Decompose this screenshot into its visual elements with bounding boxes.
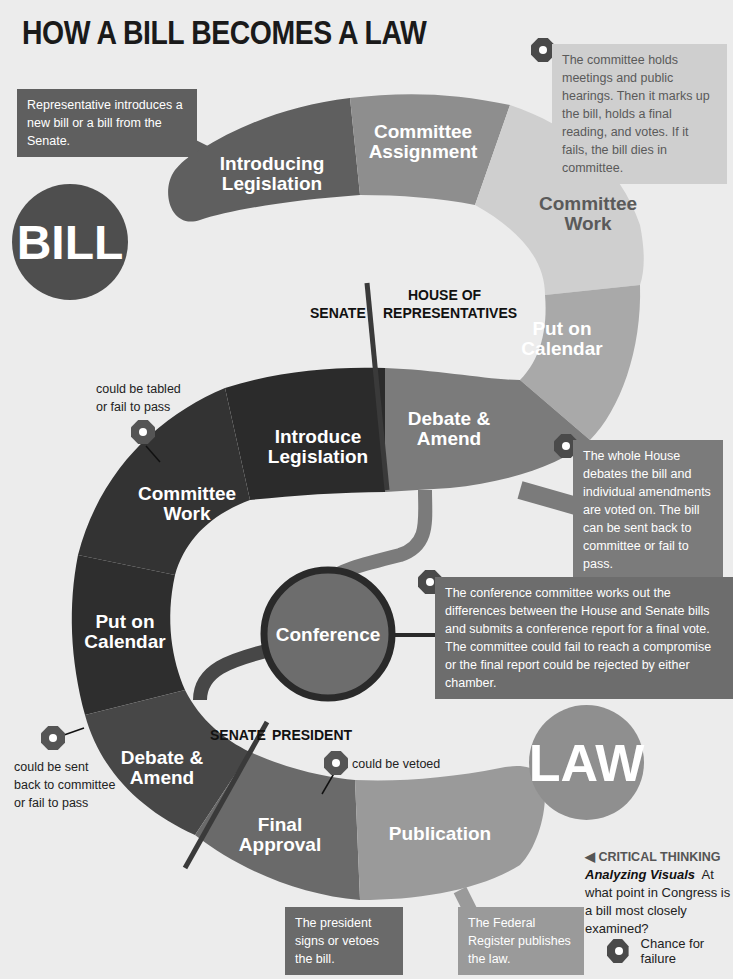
label-president: PRESIDENT (272, 727, 353, 743)
callout-president: The president signs or vetoes the bill. (285, 907, 403, 975)
note-tabled: could be tabledor fail to pass (96, 380, 181, 416)
note-vetoed: could be vetoed (352, 755, 440, 773)
legend-label: Chance for failure (641, 936, 733, 966)
note-sent-back: could be sentback to committeeor fail to… (14, 758, 115, 812)
critical-thinking-heading: ◀ CRITICAL THINKING (585, 848, 733, 866)
label-house-line1: HOUSE OF (408, 287, 482, 303)
callout-publication: The Federal Register publishes the law. (458, 907, 584, 975)
label-senate-top: SENATE (310, 305, 366, 321)
callout-conference: The conference committee works out the d… (435, 577, 733, 699)
callout-debate-house: The whole House debates the bill and ind… (573, 440, 723, 580)
label-house-line2: REPRESENTATIVES (383, 305, 517, 321)
svg-text:Put onCalendar: Put onCalendar (84, 611, 166, 652)
critical-thinking: ◀ CRITICAL THINKING Analyzing Visuals At… (585, 848, 733, 938)
failure-octagon-senate-committee (131, 420, 155, 444)
critical-thinking-subheading: Analyzing Visuals (585, 867, 695, 882)
callout-committee-work: The committee holds meetings and public … (552, 44, 727, 184)
svg-text:Debate &Amend: Debate &Amend (408, 408, 491, 449)
svg-text:CommitteeAssignment: CommitteeAssignment (369, 121, 478, 162)
segment-committee-work-senate (78, 388, 250, 575)
legend: Chance for failure (607, 936, 733, 966)
law-badge: LAW (529, 705, 644, 820)
bill-badge: BILL (12, 184, 128, 300)
callout-introducing: Representative introduces a new bill or … (17, 89, 197, 157)
svg-text:IntroduceLegislation: IntroduceLegislation (268, 426, 368, 467)
label-senate-bottom: SENATE (210, 727, 266, 743)
svg-text:Put onCalendar: Put onCalendar (521, 318, 603, 359)
failure-octagon-icon (607, 939, 629, 963)
svg-text:Debate &Amend: Debate &Amend (121, 747, 204, 788)
svg-text:Publication: Publication (389, 823, 491, 844)
conference-label: Conference (276, 624, 381, 645)
svg-text:IntroducingLegislation: IntroducingLegislation (220, 153, 324, 194)
